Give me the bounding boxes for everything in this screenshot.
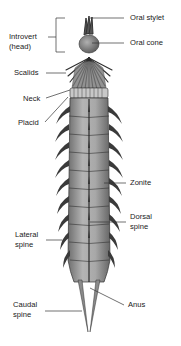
oral-stylet: [84, 16, 93, 35]
label-zonite: Zonite: [130, 178, 151, 187]
label-scalids: Scalids: [14, 68, 38, 77]
label-oral-cone: Oral cone: [130, 38, 163, 47]
label-caudal-spine-2: spine: [13, 310, 31, 319]
label-lateral-spine: Lateral: [15, 230, 38, 239]
label-dorsal-spine-2: spine: [130, 222, 148, 231]
kinorhynch-illustration: [0, 0, 181, 346]
label-neck: Neck: [23, 94, 40, 103]
caudal-spines: [78, 280, 100, 332]
kinorhynch-diagram: Oral stylet Oral cone Introvert (head) S…: [0, 0, 181, 346]
label-introvert-head: (head): [9, 42, 31, 51]
label-introvert: Introvert: [9, 32, 37, 41]
lateral-spines-right: [108, 106, 123, 268]
neck: [70, 88, 108, 98]
oral-cone: [79, 35, 99, 53]
label-caudal-spine: Caudal: [13, 300, 37, 309]
label-lateral-spine-2: spine: [15, 240, 33, 249]
label-dorsal-spine: Dorsal: [130, 212, 152, 221]
lateral-spines-left: [55, 106, 70, 268]
label-oral-stylet: Oral stylet: [130, 13, 164, 22]
label-placid: Placid: [18, 118, 39, 127]
label-anus: Anus: [128, 300, 145, 309]
